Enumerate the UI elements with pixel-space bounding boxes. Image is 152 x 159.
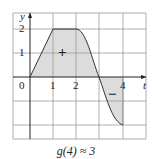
- plus-annotation: +: [58, 44, 67, 61]
- x-tick-4: 4: [120, 79, 126, 91]
- origin-label: 0: [19, 79, 25, 91]
- y-tick-1: 1: [19, 46, 25, 58]
- x-tick-1: 1: [50, 79, 56, 91]
- caption: g(4) ≈ 3: [0, 144, 152, 159]
- minus-annotation: −: [108, 86, 117, 103]
- y-tick-2: 2: [19, 22, 25, 34]
- t-axis-label: t: [143, 79, 146, 91]
- y-axis-label: y: [20, 10, 25, 22]
- x-tick-2: 2: [73, 79, 79, 91]
